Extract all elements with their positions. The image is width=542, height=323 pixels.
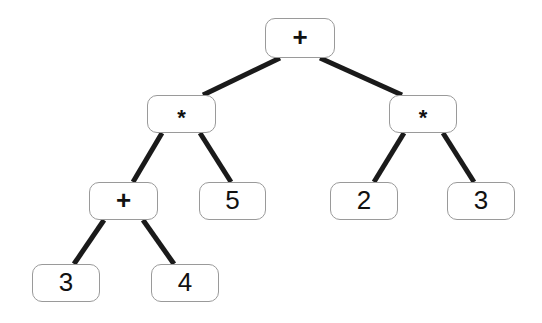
tree-node-label: 2 bbox=[357, 187, 371, 213]
tree-node-label: 4 bbox=[178, 269, 192, 295]
tree-node-label: 3 bbox=[59, 269, 73, 295]
tree-node-root[interactable]: + bbox=[265, 18, 335, 58]
tree-edge bbox=[443, 133, 474, 182]
tree-node-mul-right[interactable]: * bbox=[389, 95, 457, 133]
tree-edge bbox=[200, 133, 231, 182]
tree-node-num-4[interactable]: 4 bbox=[151, 264, 219, 302]
tree-node-num-3-left[interactable]: 3 bbox=[32, 264, 100, 302]
tree-edges bbox=[74, 58, 474, 264]
tree-node-label: + bbox=[292, 24, 307, 50]
tree-node-label: * bbox=[419, 107, 428, 129]
tree-node-label: 3 bbox=[474, 187, 488, 213]
tree-node-mul-left[interactable]: * bbox=[147, 95, 216, 133]
tree-node-label: * bbox=[177, 107, 186, 129]
tree-node-num-2[interactable]: 2 bbox=[330, 182, 398, 220]
tree-edge bbox=[320, 58, 402, 95]
tree-edge bbox=[374, 133, 404, 182]
tree-edge bbox=[74, 220, 104, 264]
tree-node-plus-inner[interactable]: + bbox=[89, 182, 158, 220]
tree-edge bbox=[203, 58, 280, 95]
tree-node-label: 5 bbox=[225, 187, 239, 213]
tree-edge bbox=[143, 220, 174, 264]
tree-node-num-3-right[interactable]: 3 bbox=[447, 182, 515, 220]
tree-node-num-5[interactable]: 5 bbox=[199, 182, 266, 220]
expression-tree-diagram: +**+52334 bbox=[0, 0, 542, 323]
tree-edge bbox=[133, 133, 162, 182]
tree-node-label: + bbox=[116, 187, 131, 213]
